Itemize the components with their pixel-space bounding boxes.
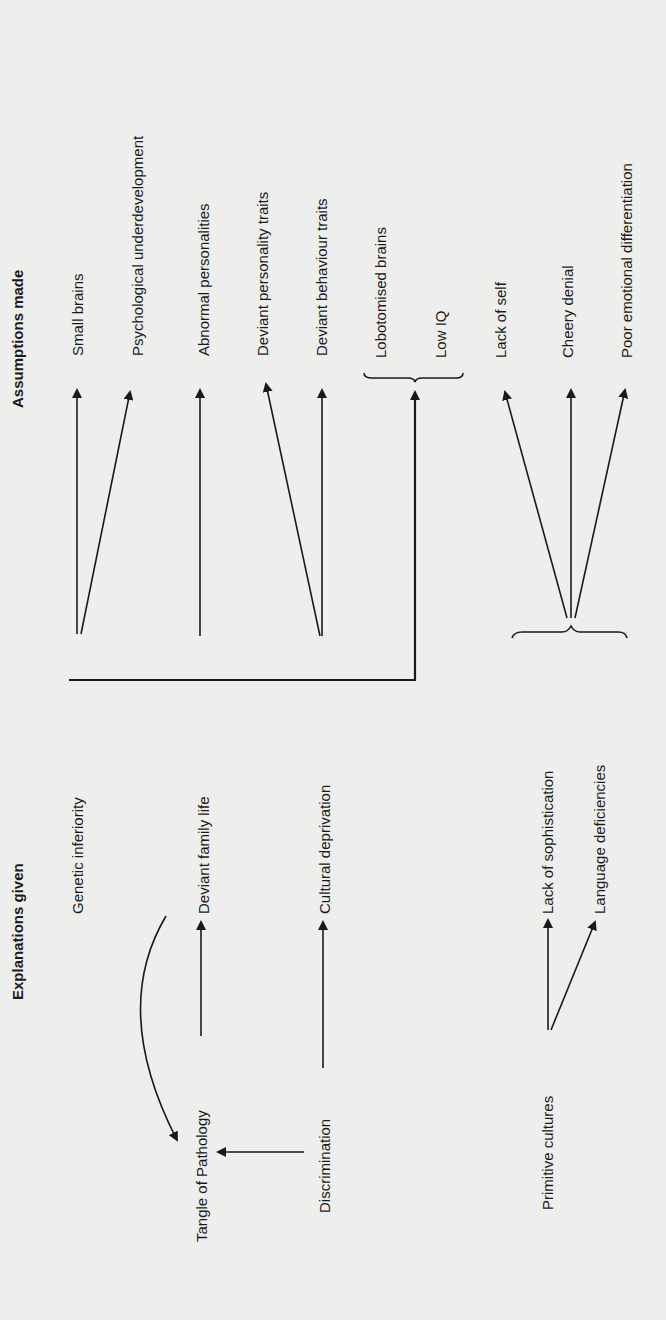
assumption-lobotomised-brains: Lobotomised brains xyxy=(372,227,389,358)
diagram-canvas: Explanations given Assumptions made Smal… xyxy=(0,0,666,1320)
explanation-tangle-of-pathology: Tangle of Pathology xyxy=(193,1110,210,1242)
assumption-cheery-denial: Cheery denial xyxy=(559,265,576,358)
explanation-language-deficiencies: Language deficiencies xyxy=(591,765,608,914)
explanation-genetic-inferiority: Genetic inferiority xyxy=(69,797,86,914)
brace-low-iq xyxy=(364,373,463,382)
assumption-lack-of-self: Lack of self xyxy=(492,281,509,358)
assumption-poor-emotional-differentiation: Poor emotional differentiation xyxy=(618,163,635,358)
arrow-primitive-to-language-deficiencies xyxy=(551,922,595,1030)
assumption-psychological-underdevelopment: Psychological underdevelopment xyxy=(129,135,146,356)
explanation-discrimination: Discrimination xyxy=(316,1119,333,1213)
explanation-primitive-cultures: Primitive cultures xyxy=(539,1096,556,1210)
assumption-low-iq: Low IQ xyxy=(432,310,449,358)
explanation-cultural-deprivation: Cultural deprivation xyxy=(316,785,333,914)
header-assumptions: Assumptions made xyxy=(9,270,26,408)
arrow-to-deviant-personality-traits xyxy=(266,384,320,636)
explanations-assumptions-diagram: Explanations given Assumptions made Smal… xyxy=(0,0,666,1320)
assumption-abnormal-personalities: Abnormal personalities xyxy=(195,203,212,356)
brace-primitive-cultures xyxy=(512,626,627,638)
arrow-curved-to-tangle xyxy=(141,916,177,1140)
explanation-lack-of-sophistication: Lack of sophistication xyxy=(539,771,556,914)
arrow-to-lack-of-self xyxy=(505,392,567,618)
arrow-to-poor-emotional-differentiation xyxy=(575,390,625,618)
header-explanations: Explanations given xyxy=(9,863,26,1000)
assumption-deviant-personality-traits: Deviant personality traits xyxy=(254,192,271,356)
assumption-small-brains: Small brains xyxy=(69,273,86,356)
explanation-deviant-family-life: Deviant family life xyxy=(195,796,212,914)
arrow-to-psychological-underdevelopment xyxy=(81,392,130,634)
assumption-deviant-behaviour-traits: Deviant behaviour traits xyxy=(313,198,330,356)
